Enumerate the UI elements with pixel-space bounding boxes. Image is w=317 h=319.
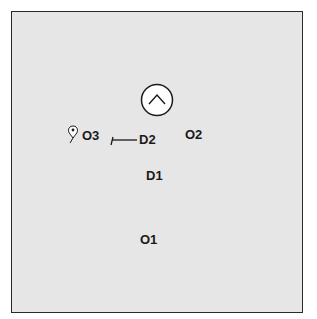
- label-d1: D1: [146, 169, 163, 182]
- label-o3: O3: [82, 129, 99, 142]
- label-d2: D2: [139, 133, 156, 146]
- label-o2: O2: [185, 128, 202, 141]
- label-o1: O1: [140, 233, 157, 246]
- leader-line-icon: [109, 135, 139, 147]
- map-pin-icon: [67, 125, 79, 145]
- diagram-frame: O3 D2 O2 D1 O1: [11, 11, 303, 313]
- chevron-up-circle-icon: [140, 83, 174, 117]
